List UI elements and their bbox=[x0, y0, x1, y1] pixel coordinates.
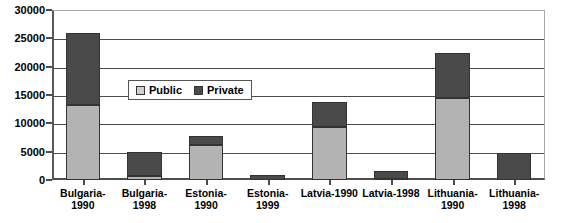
y-tick-mark bbox=[46, 9, 52, 11]
x-axis-label: Lithuania-1998 bbox=[483, 187, 545, 211]
bar-group[interactable] bbox=[312, 10, 347, 180]
bar-segment-public[interactable] bbox=[435, 98, 470, 180]
y-tick-label: 20000 bbox=[14, 61, 45, 72]
chart-legend: PublicPrivate bbox=[128, 80, 252, 100]
x-axis-label-line1: Estonia- bbox=[237, 187, 299, 199]
x-axis-label-line1: Latvia-1998 bbox=[360, 187, 422, 199]
bar-group[interactable] bbox=[66, 10, 101, 180]
bar-segment-public[interactable] bbox=[66, 105, 101, 180]
x-axis-label-line2: 1990 bbox=[422, 199, 484, 211]
y-tick-label: 25000 bbox=[14, 33, 45, 44]
bar-segment-private[interactable] bbox=[66, 33, 101, 106]
x-tick-mark bbox=[268, 180, 270, 185]
x-tick-mark bbox=[144, 180, 146, 185]
bar-segment-private[interactable] bbox=[312, 102, 347, 128]
x-axis-label-line1: Lithuania- bbox=[483, 187, 545, 199]
bar-group[interactable] bbox=[374, 10, 409, 180]
bar-group[interactable] bbox=[497, 10, 532, 180]
x-axis-label-line1: Bulgaria- bbox=[52, 187, 114, 199]
y-tick-label: 0 bbox=[39, 175, 45, 186]
x-axis-label-line1: Estonia- bbox=[175, 187, 237, 199]
bar-segment-private[interactable] bbox=[374, 171, 409, 179]
y-tick-mark bbox=[46, 94, 52, 96]
x-tick-mark bbox=[329, 180, 331, 185]
bar-group[interactable] bbox=[435, 10, 470, 180]
legend-label: Public bbox=[149, 85, 182, 96]
y-tick-mark bbox=[46, 37, 52, 39]
x-axis-label-line1: Lithuania- bbox=[422, 187, 484, 199]
y-tick-label: 15000 bbox=[14, 90, 45, 101]
x-axis-label: Latvia-1998 bbox=[360, 187, 422, 199]
legend-label: Private bbox=[207, 85, 244, 96]
bar-group[interactable] bbox=[250, 10, 285, 180]
x-axis-label-line1: Bulgaria- bbox=[114, 187, 176, 199]
y-tick-label: 5000 bbox=[21, 146, 45, 157]
y-tick-mark bbox=[46, 66, 52, 68]
x-tick-mark bbox=[453, 180, 455, 185]
x-axis-label: Latvia-1990 bbox=[299, 187, 361, 199]
stacked-bar-chart: 050001000015000200002500030000 PublicPri… bbox=[0, 0, 567, 223]
x-tick-mark bbox=[206, 180, 208, 185]
x-axis-label-line2: 1998 bbox=[483, 199, 545, 211]
x-axis-label: Lithuania-1990 bbox=[422, 187, 484, 211]
y-axis: 050001000015000200002500030000 bbox=[0, 0, 45, 223]
x-tick-mark bbox=[514, 180, 516, 185]
y-tick-label: 10000 bbox=[14, 118, 45, 129]
legend-entry[interactable]: Public bbox=[136, 85, 182, 96]
bar-segment-private[interactable] bbox=[435, 53, 470, 99]
bar-segment-private[interactable] bbox=[189, 136, 224, 145]
x-axis-label-line2: 1990 bbox=[175, 199, 237, 211]
x-tick-mark bbox=[391, 180, 393, 185]
x-axis-label: Bulgaria-1990 bbox=[52, 187, 114, 211]
x-axis-label: Bulgaria-1998 bbox=[114, 187, 176, 211]
x-axis-label: Estonia-1999 bbox=[237, 187, 299, 211]
y-tick-mark bbox=[46, 151, 52, 153]
bar-segment-private[interactable] bbox=[497, 153, 532, 180]
x-axis: Bulgaria-1990Bulgaria-1998Estonia-1990Es… bbox=[52, 187, 545, 221]
y-tick-mark bbox=[46, 179, 52, 181]
x-tick-mark bbox=[83, 180, 85, 185]
x-axis-label-line2: 1998 bbox=[114, 199, 176, 211]
bar-segment-public[interactable] bbox=[312, 127, 347, 180]
x-axis-label: Estonia-1990 bbox=[175, 187, 237, 211]
bar-segment-private[interactable] bbox=[127, 152, 162, 176]
x-axis-label-line1: Latvia-1990 bbox=[299, 187, 361, 199]
legend-swatch-icon bbox=[136, 86, 145, 95]
x-axis-label-line2: 1999 bbox=[237, 199, 299, 211]
x-axis-label-line2: 1990 bbox=[52, 199, 114, 211]
y-tick-mark bbox=[46, 122, 52, 124]
legend-entry[interactable]: Private bbox=[194, 85, 244, 96]
bar-segment-public[interactable] bbox=[189, 145, 224, 180]
bars-layer bbox=[52, 10, 545, 180]
legend-swatch-icon bbox=[194, 86, 203, 95]
y-tick-label: 30000 bbox=[14, 5, 45, 16]
